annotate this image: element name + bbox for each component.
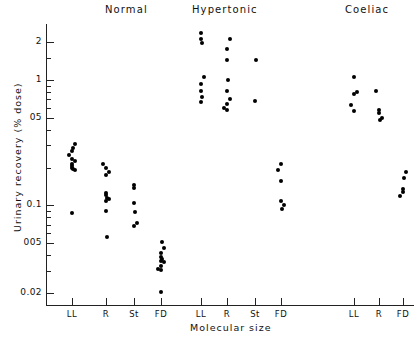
data-point	[228, 97, 232, 101]
data-point	[104, 173, 108, 177]
y-tick-minor	[47, 130, 51, 131]
data-point	[374, 89, 378, 93]
data-point	[279, 179, 283, 183]
x-tick	[403, 298, 404, 305]
data-point	[133, 210, 137, 214]
data-point	[254, 58, 258, 62]
x-tick	[72, 298, 73, 305]
x-tick	[201, 298, 202, 305]
x-axis-line	[46, 305, 414, 306]
y-tick-minor	[47, 225, 51, 226]
y-tick-label: 005	[4, 237, 42, 247]
x-tick	[281, 298, 282, 305]
x-tick	[379, 298, 380, 305]
data-point	[225, 102, 229, 106]
data-point	[199, 89, 203, 93]
data-point	[253, 99, 257, 103]
data-point	[104, 166, 108, 170]
y-tick-label: 1	[4, 74, 42, 84]
data-point	[279, 162, 283, 166]
data-point	[280, 207, 284, 211]
y-tick-minor	[47, 92, 51, 93]
data-point	[159, 251, 163, 255]
y-tick-label: 0.1	[4, 199, 42, 209]
y-tick-label: 05	[4, 112, 42, 122]
data-point	[159, 290, 163, 294]
chart-figure: Urinary recovery (% dose) Molecular size…	[0, 0, 418, 338]
y-axis-label: Urinary recovery (% dose)	[12, 82, 23, 232]
data-point	[199, 100, 203, 104]
y-tick-minor	[47, 217, 51, 218]
x-tick-label-fd: FD	[265, 309, 297, 319]
y-tick-major	[47, 118, 54, 119]
data-point	[352, 75, 356, 79]
x-tick-label-fd: FD	[387, 309, 418, 319]
data-point	[132, 186, 136, 190]
y-tick-label: 2	[4, 36, 42, 46]
y-tick-minor	[47, 108, 51, 109]
data-point	[276, 168, 280, 172]
data-point	[159, 268, 163, 272]
y-axis-line	[46, 24, 47, 306]
data-point	[202, 75, 206, 79]
x-tick	[134, 298, 135, 305]
data-point	[132, 201, 136, 205]
data-point	[73, 168, 77, 172]
x-tick-label-fd: FD	[145, 309, 177, 319]
data-point	[225, 89, 229, 93]
data-point	[402, 176, 406, 180]
y-tick-minor	[47, 233, 51, 234]
y-tick-minor	[47, 86, 51, 87]
x-tick	[106, 298, 107, 305]
data-point	[225, 58, 229, 62]
y-tick-major	[47, 293, 54, 294]
data-point	[226, 78, 230, 82]
data-point	[70, 149, 74, 153]
data-point	[349, 103, 353, 107]
group-title-hypertonic: Hypertonic	[192, 4, 258, 15]
data-point	[398, 194, 402, 198]
y-tick-minor	[47, 255, 51, 256]
y-tick-minor	[47, 211, 51, 212]
data-point	[73, 142, 77, 146]
data-point	[160, 240, 164, 244]
y-tick-label: 0.02	[4, 287, 42, 297]
data-point	[200, 95, 204, 99]
data-point	[162, 246, 166, 250]
x-axis-label: Molecular size	[190, 322, 272, 333]
data-point	[228, 37, 232, 41]
group-title-coeliac: Coeliac	[345, 4, 389, 15]
y-tick-major	[47, 205, 54, 206]
y-tick-minor	[47, 168, 51, 169]
x-tick	[227, 298, 228, 305]
data-point	[225, 47, 229, 51]
x-tick-label-ll: LL	[56, 309, 88, 319]
y-tick-minor	[47, 58, 51, 59]
data-point	[352, 109, 356, 113]
y-tick-major	[47, 80, 54, 81]
y-tick-minor	[47, 145, 51, 146]
x-tick	[354, 298, 355, 305]
data-point	[377, 111, 381, 115]
x-tick	[161, 298, 162, 305]
y-tick-major	[47, 243, 54, 244]
data-point	[199, 31, 203, 35]
data-point	[199, 82, 203, 86]
data-point	[105, 235, 109, 239]
data-point	[162, 260, 166, 264]
data-point	[101, 162, 105, 166]
data-point	[104, 199, 108, 203]
data-point	[225, 108, 229, 112]
data-point	[104, 209, 108, 213]
data-point	[352, 92, 356, 96]
data-point	[378, 118, 382, 122]
data-point	[404, 170, 408, 174]
data-point	[70, 211, 74, 215]
data-point	[200, 41, 204, 45]
group-title-normal: Normal	[105, 4, 148, 15]
y-tick-minor	[47, 271, 51, 272]
x-tick	[255, 298, 256, 305]
data-point	[132, 224, 136, 228]
y-tick-minor	[47, 99, 51, 100]
y-tick-major	[47, 42, 54, 43]
